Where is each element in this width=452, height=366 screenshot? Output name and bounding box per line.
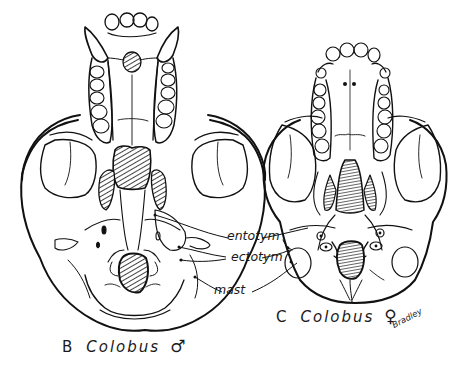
male-symbol-icon: ♂ [170, 336, 187, 356]
panel-letter-c: C [276, 308, 288, 326]
genus-name-b: Colobus [86, 338, 160, 356]
skull-c-female [264, 43, 447, 303]
caption-panel-c: CColobus♀ [276, 306, 399, 326]
label-entotym: entotym [227, 228, 280, 243]
label-ectotym: ectotym [231, 249, 283, 264]
label-mast: mast [214, 282, 245, 297]
panel-letter-b: B [62, 338, 74, 356]
caption-panel-b: BColobus♂ [62, 336, 187, 356]
genus-name-c: Colobus [300, 308, 374, 326]
